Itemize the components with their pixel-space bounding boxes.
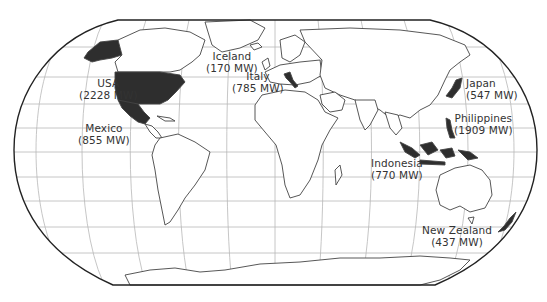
label-indonesia-country: Indonesia [371, 157, 423, 169]
label-new-zealand: New Zealand (437 MW) [422, 224, 492, 248]
label-japan: Japan (547 MW) [466, 77, 518, 101]
label-mexico-value: (855 MW) [78, 134, 130, 146]
uk [262, 58, 270, 70]
label-italy-country: Italy [232, 70, 284, 82]
label-new-zealand-value: (437 MW) [422, 236, 492, 248]
label-philippines-country: Philippines [454, 112, 513, 124]
label-mexico: Mexico (855 MW) [78, 122, 130, 146]
central-america [145, 124, 162, 138]
australia [436, 165, 492, 212]
world-geothermal-map: USA (2228 MW) Mexico (855 MW) Iceland (1… [0, 0, 547, 302]
label-japan-country: Japan [466, 77, 518, 89]
label-indonesia-value: (770 MW) [371, 169, 423, 181]
label-philippines-value: (1909 MW) [454, 124, 513, 136]
label-indonesia: Indonesia (770 MW) [371, 157, 423, 181]
tasmania [468, 217, 474, 224]
label-usa-country: USA [79, 77, 138, 89]
south-america [152, 134, 210, 225]
label-usa: USA (2228 MW) [79, 77, 138, 101]
madagascar [335, 165, 342, 185]
label-usa-value: (2228 MW) [79, 89, 138, 101]
label-italy-value: (785 MW) [232, 82, 284, 94]
iceland [250, 43, 262, 50]
canada [115, 28, 205, 72]
label-japan-value: (547 MW) [466, 89, 518, 101]
scandinavia [280, 35, 305, 62]
label-italy: Italy (785 MW) [232, 70, 284, 94]
india [355, 100, 378, 130]
antarctica [125, 256, 470, 285]
map-canvas [0, 0, 547, 302]
label-philippines: Philippines (1909 MW) [454, 112, 513, 136]
label-mexico-country: Mexico [78, 122, 130, 134]
label-new-zealand-country: New Zealand [422, 224, 492, 236]
cuba [157, 116, 175, 121]
japan [446, 78, 462, 98]
label-iceland-country: Iceland [206, 50, 258, 62]
new-zealand [498, 212, 516, 232]
